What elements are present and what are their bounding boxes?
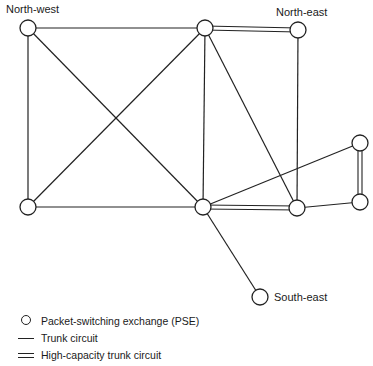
trunk-circuit-bm-se (203, 207, 260, 297)
trunk-circuit-tm-br (205, 28, 297, 208)
label-south-east: South-east (274, 291, 327, 303)
trunk-circuit-tm-bm (203, 28, 205, 207)
edges-layer (28, 26, 362, 297)
high-capacity-trunk-tm-ne (205, 30, 298, 32)
legend-item-pse: Packet-switching exchange (PSE) (18, 312, 199, 329)
trunk-circuit-bm-frt (203, 143, 360, 207)
legend-high-capacity-label: High-capacity trunk circuit (41, 349, 161, 361)
high-capacity-trunk-bm-br (203, 209, 297, 210)
pse-circle-icon (18, 315, 38, 327)
legend-item-trunk: Trunk circuit (18, 329, 199, 346)
pse-node-frt (352, 135, 368, 151)
pse-node-nw (20, 20, 36, 36)
double-line-icon (18, 349, 38, 361)
label-north-west: North-west (6, 3, 59, 15)
legend-trunk-label: Trunk circuit (41, 332, 98, 344)
trunk-circuit-br-frb (297, 202, 360, 208)
pse-node-ne (290, 22, 306, 38)
high-capacity-trunk-tm-ne (205, 26, 298, 28)
pse-node-frb (352, 194, 368, 210)
label-north-east: North-east (276, 6, 327, 18)
legend: Packet-switching exchange (PSE) Trunk ci… (18, 312, 199, 363)
trunk-circuit-ne-br (297, 30, 298, 208)
pse-node-bl (20, 199, 36, 215)
legend-pse-label: Packet-switching exchange (PSE) (41, 315, 199, 327)
legend-item-high-capacity: High-capacity trunk circuit (18, 346, 199, 363)
pse-node-br (289, 200, 305, 216)
single-line-icon (18, 332, 38, 344)
pse-node-bm (195, 199, 211, 215)
pse-node-tm (197, 20, 213, 36)
high-capacity-trunk-bm-br (203, 205, 297, 206)
pse-node-se (252, 289, 268, 305)
